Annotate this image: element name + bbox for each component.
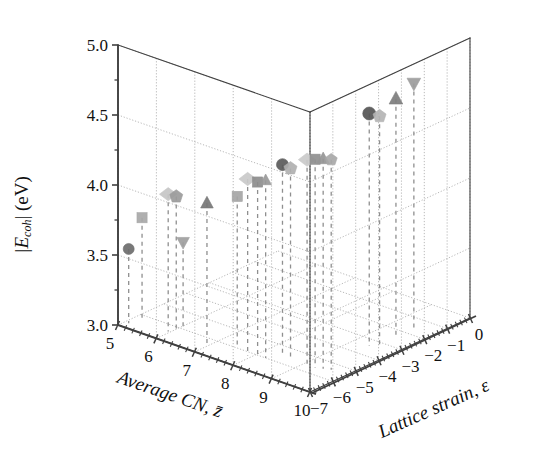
y-axis-tick-label: 4.5	[87, 106, 108, 125]
x-axis-tick-label: 6	[144, 347, 153, 366]
data-point-triangle-down[interactable]	[407, 78, 421, 91]
y-axis-label-text: |Ecoh| (eV)	[11, 176, 34, 254]
z-axis-tick-label: −7	[310, 399, 329, 418]
right-wall-grid	[310, 38, 470, 392]
data-point-triangle-up[interactable]	[389, 91, 403, 104]
x-axis-tick-label: 7	[183, 361, 192, 380]
plot-canvas: 3.03.54.04.55.0|Ecoh| (eV)5678910Average…	[0, 0, 547, 457]
z-axis-tick-label: −2	[424, 346, 442, 365]
right-wall-hline	[310, 248, 470, 322]
x-axis-tick-label: 9	[259, 388, 268, 407]
y-axis-tick-label: 4.0	[87, 176, 108, 195]
z-axis-tick-label: −3	[401, 357, 419, 376]
z-axis-tick-label: −1	[447, 336, 465, 355]
z-axis-tick-label: −4	[379, 367, 398, 386]
x-axis-tick-label: 8	[221, 374, 230, 393]
floor-grid-line	[156, 264, 316, 338]
x-axis-tick-label: 10	[294, 401, 311, 420]
y-axis-tick-label: 3.0	[87, 316, 108, 335]
figure-3d-scatter: 3.03.54.04.55.0|Ecoh| (eV)5678910Average…	[0, 0, 547, 457]
floor-grid-line	[255, 262, 447, 329]
data-point-square[interactable]	[137, 213, 147, 223]
z-axis-tick-label: 0	[475, 325, 484, 344]
z-axis-tick-label: −5	[356, 378, 374, 397]
data-point-square[interactable]	[232, 191, 242, 201]
frame-top-right	[310, 38, 470, 112]
data-point-circle[interactable]	[123, 243, 134, 254]
data-point-triangle-down[interactable]	[177, 237, 190, 249]
x-axis-label-text: Average CN, z̄	[113, 365, 226, 421]
x-axis-tick-label: 5	[106, 334, 115, 353]
x-axis-label: Average CN, z̄	[113, 365, 226, 421]
left-wall-hline	[118, 115, 310, 182]
y-axis-tick-label: 3.5	[87, 246, 108, 265]
frame-top-left	[118, 45, 310, 112]
y-axis-label: |Ecoh| (eV)	[11, 176, 34, 254]
floor-grid-line	[232, 272, 424, 339]
z-axis-tick-label: −6	[333, 388, 351, 407]
data-point-pentagon[interactable]	[325, 153, 337, 164]
y-axis-tick-label: 5.0	[87, 36, 108, 55]
right-wall-hline	[310, 108, 470, 182]
right-wall-hline	[310, 178, 470, 252]
data-point-triangle-up[interactable]	[201, 196, 214, 208]
